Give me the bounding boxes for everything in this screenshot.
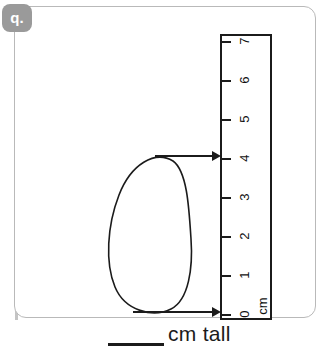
ruler: 7 6 5 4 3 2 1 0 cm [220,34,272,320]
ruler-label-3: 3 [238,186,252,208]
top-arrow-line [155,155,213,157]
ruler-label-4: 4 [238,147,252,169]
worksheet-card: 7 6 5 4 3 2 1 0 cm [14,6,316,318]
ruler-tick-4 [222,158,231,160]
answer-blank-input[interactable] [108,343,164,346]
egg-svg [103,147,195,319]
answer-unit-label: cm tall [168,322,231,346]
ruler-label-1: 1 [238,264,252,286]
ruler-tick-6 [222,80,231,82]
ruler-tick-1 [222,275,231,277]
ruler-label-5: 5 [238,108,252,130]
ruler-unit-label: cm [255,293,271,319]
ruler-tick-3 [222,197,231,199]
bottom-arrow-head [212,307,221,317]
ruler-tick-7 [222,41,231,43]
worksheet-page: 7 6 5 4 3 2 1 0 cm [0,0,330,363]
ruler-label-7: 7 [238,30,252,52]
egg-outline [103,147,195,319]
bottom-arrow-line [133,311,213,313]
ruler-label-6: 6 [238,69,252,91]
ruler-tick-2 [222,236,231,238]
ruler-tick-5 [222,119,231,121]
question-number-badge: q. [2,4,32,32]
answer-row: cm tall [0,322,330,362]
top-arrow-head [212,151,221,161]
ruler-tick-0 [222,314,231,316]
ruler-label-2: 2 [238,225,252,247]
